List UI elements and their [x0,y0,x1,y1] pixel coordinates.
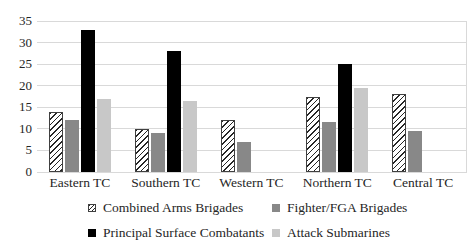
legend: Combined Arms BrigadesFighter/FGA Brigad… [88,200,407,241]
legend-swatch-icon [88,229,96,237]
legend-swatch-icon [272,204,280,212]
legend-label: Fighter/FGA Brigades [287,200,407,216]
y-axis-tick-label: 15 [0,99,32,115]
category-label-eastern-tc: Eastern TC [37,175,123,191]
bar-eastern-tc-fighter-fga-brigades [65,120,79,172]
bar-eastern-tc-attack-submarines [97,99,111,172]
gridline-y-35 [37,21,466,22]
legend-item-attack-submarines: Attack Submarines [272,225,407,241]
bar-eastern-tc-combined-arms-brigades [49,112,63,172]
gridline-y-20 [37,85,466,86]
y-axis-tick-label: 35 [0,13,32,29]
legend-label: Principal Surface Combatants [103,225,264,241]
y-axis-tick-label: 10 [0,121,32,137]
category-label-western-tc: Western TC [209,175,295,191]
legend-item-combined-arms-brigades: Combined Arms Brigades [88,200,272,216]
bar-northern-tc-principal-surface-combatants [338,64,352,172]
bar-central-tc-fighter-fga-brigades [408,131,422,172]
legend-swatch-icon [88,204,96,212]
category-label-northern-tc: Northern TC [294,175,380,191]
y-axis-tick-label: 5 [0,142,32,158]
legend-label: Attack Submarines [287,225,390,241]
y-axis-tick-label: 0 [0,164,32,180]
bar-northern-tc-combined-arms-brigades [306,97,320,173]
legend-item-principal-surface-combatants: Principal Surface Combatants [88,225,272,241]
gridline-y-30 [37,42,466,43]
bar-northern-tc-fighter-fga-brigades [322,122,336,172]
bar-western-tc-fighter-fga-brigades [237,142,251,172]
gridline-y-25 [37,64,466,65]
bar-eastern-tc-principal-surface-combatants [81,30,95,172]
legend-label: Combined Arms Brigades [103,200,243,216]
category-label-central-tc: Central TC [380,175,466,191]
clustered-bar-chart: 05101520253035 Eastern TCSouthern TCWest… [0,0,470,252]
y-axis-tick-label: 25 [0,56,32,72]
bar-southern-tc-principal-surface-combatants [167,51,181,172]
y-axis-tick-label: 20 [0,78,32,94]
legend-item-fighter-fga-brigades: Fighter/FGA Brigades [272,200,407,216]
category-label-southern-tc: Southern TC [123,175,209,191]
bar-southern-tc-fighter-fga-brigades [151,133,165,172]
bar-southern-tc-combined-arms-brigades [135,129,149,172]
bar-northern-tc-attack-submarines [354,88,368,172]
bar-southern-tc-attack-submarines [183,101,197,172]
plot-right-border [466,21,467,173]
bar-western-tc-combined-arms-brigades [221,120,235,172]
y-axis-tick-label: 30 [0,35,32,51]
legend-swatch-icon [272,229,280,237]
bar-central-tc-combined-arms-brigades [392,94,406,172]
